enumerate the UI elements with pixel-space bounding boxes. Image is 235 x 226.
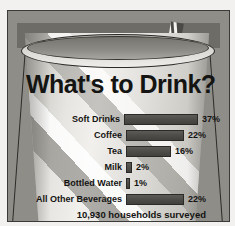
page-title: What's to Drink? [26, 72, 216, 97]
bar-coffee [126, 130, 184, 141]
bar-chart: Soft Drinks 37% Coffee 22% Tea 16% [22, 112, 220, 208]
bar-track: 16% [126, 146, 220, 157]
bar-bottled-water [126, 178, 130, 189]
cup-rim-inner [27, 36, 209, 60]
chart-row: Milk 2% [22, 160, 220, 174]
chart-row: All Other Beverages 22% [22, 192, 220, 206]
bar-tea [126, 146, 171, 157]
chart-row: Bottled Water 1% [22, 176, 220, 190]
value-label-coffee: 22% [188, 131, 206, 140]
bar-track: 37% [124, 114, 220, 125]
value-label-soft-drinks: 37% [202, 115, 220, 124]
value-label-bottled-water: 1% [134, 179, 147, 188]
value-label-all-other-beverages: 22% [188, 195, 206, 204]
chart-row: Coffee 22% [22, 128, 220, 142]
bar-track: 22% [126, 194, 220, 205]
bar-soft-drinks [124, 114, 198, 125]
chart-row: Soft Drinks 37% [22, 112, 220, 126]
category-label-milk: Milk [22, 163, 126, 172]
category-label-tea: Tea [22, 147, 126, 156]
bar-track: 22% [126, 130, 220, 141]
value-label-milk: 2% [136, 163, 149, 172]
chart-row: Tea 16% [22, 144, 220, 158]
category-label-all-other-beverages: All Other Beverages [22, 195, 126, 204]
survey-footnote: 10,930 households surveyed [8, 209, 220, 220]
infographic-page: What's to Drink? Soft Drinks 37% Coffee … [0, 0, 235, 226]
category-label-soft-drinks: Soft Drinks [22, 115, 124, 124]
bar-track: 2% [126, 162, 220, 173]
bar-milk [126, 162, 132, 173]
graphic-frame: What's to Drink? Soft Drinks 37% Coffee … [7, 10, 230, 222]
bar-all-other-beverages [126, 194, 184, 205]
category-label-coffee: Coffee [22, 131, 126, 140]
value-label-tea: 16% [175, 147, 193, 156]
bar-track: 1% [126, 178, 220, 189]
category-label-bottled-water: Bottled Water [22, 179, 126, 188]
